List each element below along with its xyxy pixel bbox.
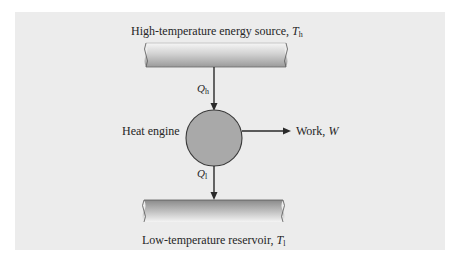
cold-reservoir-label: Low-temperature reservoir, Tl [142, 233, 285, 247]
heat-out-arrow [211, 166, 218, 200]
heat-engine-diagram [0, 0, 459, 268]
work-arrow [242, 128, 291, 135]
hot-reservoir-bar [145, 43, 288, 67]
temperature-symbol: T [292, 24, 299, 38]
work-label: Work, W [296, 124, 338, 138]
heat-engine-label: Heat engine [122, 124, 180, 138]
cold-reservoir-bar [143, 200, 285, 222]
heat-in-arrow [211, 67, 218, 111]
heat-out-label: Ql [197, 166, 207, 180]
heat-engine-circle [186, 110, 242, 166]
heat-in-label: Qh [197, 81, 209, 95]
hot-reservoir-label: High-temperature energy source, Th [131, 24, 303, 38]
